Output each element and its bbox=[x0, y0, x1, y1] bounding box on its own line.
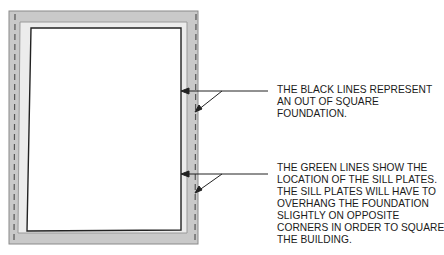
callout-line: AN OUT OF SQUARE bbox=[277, 96, 432, 108]
callout-line: LOCATION OF THE SILL PLATES. bbox=[277, 174, 444, 186]
callout-line: OVERHANG THE FOUNDATION bbox=[277, 198, 444, 210]
callout-line: CORNERS IN ORDER TO SQUARE bbox=[277, 222, 444, 234]
callout-line: THE SILL PLATES WILL HAVE TO bbox=[277, 186, 444, 198]
callout-line: SLIGHTLY ON OPPOSITE bbox=[277, 210, 444, 222]
callout-green-lines: THE GREEN LINES SHOW THE LOCATION OF THE… bbox=[277, 162, 444, 246]
callout-line: THE GREEN LINES SHOW THE bbox=[277, 162, 444, 174]
callout-black-lines: THE BLACK LINES REPRESENT AN OUT OF SQUA… bbox=[277, 84, 432, 120]
callout-line: FOUNDATION. bbox=[277, 108, 432, 120]
callout-line: THE BUILDING. bbox=[277, 234, 444, 246]
foundation-outline bbox=[9, 11, 198, 244]
callout-line: THE BLACK LINES REPRESENT bbox=[277, 84, 432, 96]
